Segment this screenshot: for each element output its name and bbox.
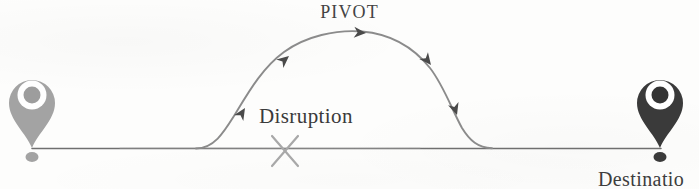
arrowhead-3 (354, 27, 367, 39)
diagram-artwork (0, 0, 699, 189)
baseline-route (32, 148, 661, 149)
destination-pin-shadow (654, 152, 667, 162)
origin-pin[interactable] (9, 80, 55, 148)
arrowhead-2 (276, 52, 292, 68)
origin-pin-shadow (26, 152, 39, 162)
pivot-label: PIVOT (0, 2, 699, 23)
diagram-canvas: PIVOT Disruption Destinatio (0, 0, 699, 189)
destination-label: Destinatio (598, 168, 684, 189)
disruption-label: Disruption (259, 104, 353, 129)
pivot-arc-path (196, 31, 492, 148)
destination-pin[interactable] (637, 80, 683, 148)
disruption-x-icon (272, 136, 298, 166)
